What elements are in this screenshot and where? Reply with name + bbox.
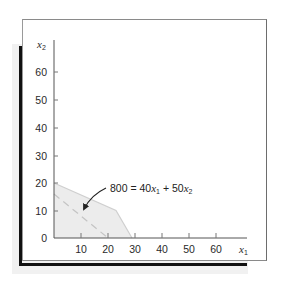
x-tick-label-20: 20 <box>102 243 114 255</box>
y-tick-label-0: 0 <box>41 232 47 244</box>
x-axis-label: x1 <box>238 243 248 256</box>
y-tick-label-10: 10 <box>35 205 47 217</box>
y-axis-label: x2 <box>36 38 46 51</box>
x-tick-label-50: 50 <box>183 243 195 255</box>
x-tick-label-30: 30 <box>129 243 141 255</box>
y-tick-label-20: 20 <box>35 177 47 189</box>
isoprofit-equation-label: 800 = 40x1 + 50x2 <box>110 182 193 195</box>
y-tick-label-50: 50 <box>35 94 47 106</box>
x-tick-label-10: 10 <box>75 243 87 255</box>
chart-plot: 0 10 20 30 40 50 60 10 20 30 40 50 60 x2… <box>0 0 285 282</box>
x-tick-label-60: 60 <box>210 243 222 255</box>
y-tick-label-60: 60 <box>35 66 47 78</box>
y-tick-label-30: 30 <box>35 150 47 162</box>
y-tick-label-40: 40 <box>35 122 47 134</box>
x-tick-label-40: 40 <box>156 243 168 255</box>
